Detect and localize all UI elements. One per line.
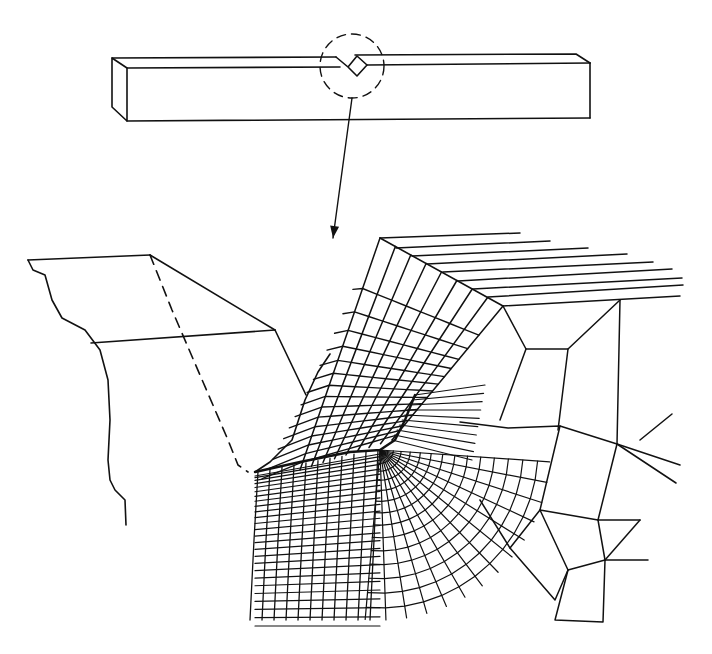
- left-block-section: [28, 255, 306, 525]
- mesh-face-row: [353, 288, 479, 335]
- notch-detail-circle: [320, 34, 384, 98]
- mesh-top-line: [427, 254, 627, 264]
- mesh-front-column: [262, 469, 270, 620]
- beam-right-front-top-edge: [367, 63, 590, 65]
- beam-front-top-edge: [127, 67, 340, 68]
- mesh-top-line: [380, 233, 520, 238]
- mesh-front-row: [255, 504, 380, 517]
- mesh-fan-ray: [380, 450, 386, 620]
- left-block-top-edge: [28, 255, 150, 260]
- mesh-fan-ray: [380, 450, 482, 586]
- notch-fillet-edge: [255, 354, 330, 472]
- mesh-fan-ray: [380, 450, 534, 522]
- beam-end-face: [112, 58, 127, 121]
- mesh-coarse-edge: [617, 300, 680, 465]
- mesh-front-row: [255, 518, 380, 529]
- dashed-detail-circle: [320, 34, 384, 98]
- mesh-front-column: [286, 465, 294, 620]
- mesh-coarse-edge: [460, 422, 617, 444]
- mesh-transition-line: [397, 430, 475, 443]
- mesh-front-column: [274, 467, 282, 620]
- figure-canvas: [0, 0, 712, 654]
- mesh-front-row: [255, 573, 380, 578]
- mesh-front-row: [255, 599, 380, 602]
- mesh-front-row: [255, 498, 380, 512]
- mesh-front-column: [298, 463, 306, 620]
- mesh-top-line: [396, 241, 550, 248]
- hidden-notch-edge: [150, 255, 248, 472]
- mesh-front-row: [255, 608, 380, 610]
- mesh-front-row: [255, 581, 380, 585]
- v-notch: [336, 56, 367, 76]
- beam-top-back-edge: [112, 57, 336, 58]
- mesh-transition-line: [400, 425, 477, 435]
- mesh-coarse-edge: [540, 426, 598, 520]
- mesh-front-row: [255, 511, 380, 523]
- mesh-coarse-edge: [558, 349, 568, 430]
- mesh-transition-line: [405, 415, 479, 418]
- finite-element-mesh: [250, 233, 683, 626]
- mesh-fan-ray: [380, 450, 550, 462]
- mesh-fan-ray: [380, 450, 512, 557]
- mesh-coarse-edge: [598, 520, 605, 560]
- mesh-coarse-edge: [605, 520, 640, 560]
- mesh-top-line: [443, 262, 653, 272]
- beam-right-top-back-edge: [355, 54, 590, 63]
- left-block-slant-edge: [150, 255, 275, 330]
- mesh-coarse-edge: [510, 510, 568, 600]
- mesh-top-line: [458, 269, 672, 281]
- mesh-coarse-edge: [500, 349, 526, 420]
- mesh-front-column: [310, 461, 318, 620]
- beam-bottom-edge: [127, 118, 590, 121]
- mesh-front-row: [255, 590, 380, 594]
- section-break-curve: [28, 260, 126, 525]
- mesh-coarse-edge: [555, 560, 605, 622]
- mesh-top-line: [412, 248, 588, 256]
- arrowhead-icon: [330, 226, 339, 238]
- beam-isometric: [112, 54, 590, 121]
- mesh-coarse-edge: [640, 414, 672, 440]
- mesh-front-column: [250, 471, 258, 620]
- mesh-top-line: [503, 296, 680, 306]
- mesh-coarse-edge: [503, 300, 620, 349]
- mesh-face-row: [343, 312, 468, 349]
- mesh-face-column: [300, 238, 380, 470]
- notched-beam-fe-mesh-diagram: [0, 0, 712, 654]
- notch-face-edge: [275, 330, 306, 395]
- mesh-face-row: [307, 385, 432, 392]
- mesh-coarse-edge: [617, 444, 676, 483]
